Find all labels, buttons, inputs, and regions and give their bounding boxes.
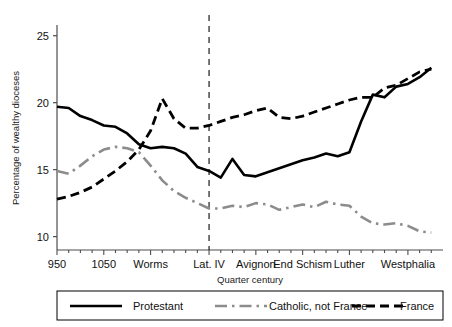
x-axis-title: Quarter century bbox=[217, 274, 283, 285]
legend-label: France bbox=[400, 300, 434, 312]
y-tick-label: 25 bbox=[37, 30, 49, 42]
y-tick-label: 10 bbox=[37, 231, 49, 243]
x-tick-label: Worms bbox=[133, 258, 168, 270]
y-axis-title: Percentage of wealthy dioceses bbox=[10, 71, 21, 205]
y-tick-label: 20 bbox=[37, 97, 49, 109]
x-tick-label: End Schism bbox=[273, 258, 332, 270]
x-tick-label: 950 bbox=[48, 258, 66, 270]
y-tick-label: 15 bbox=[37, 164, 49, 176]
legend-label: Protestant bbox=[133, 300, 183, 312]
x-tick-label: Westphalia bbox=[381, 258, 436, 270]
x-tick-label: Avignon bbox=[236, 258, 276, 270]
x-tick-label: Luther bbox=[334, 258, 366, 270]
x-tick-label: Lat. IV bbox=[193, 258, 225, 270]
x-tick-label: 1050 bbox=[92, 258, 116, 270]
line-chart-figure: 10152025 9501050WormsLat. IVAvignonEnd S… bbox=[0, 0, 452, 327]
